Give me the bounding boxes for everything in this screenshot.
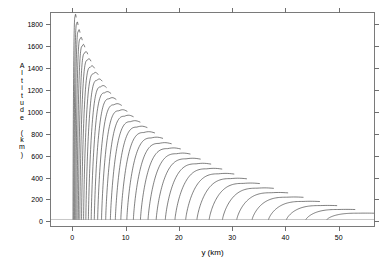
y-axis-title-char: i	[17, 84, 27, 91]
x-tick-mark	[285, 226, 286, 231]
y-tick-mark	[46, 221, 51, 222]
y-tick-mark	[46, 156, 51, 157]
x-tick-mark	[232, 226, 233, 231]
y-tick-mark-right	[374, 68, 379, 69]
y-axis-title-char: e	[17, 114, 27, 121]
trajectory-curve	[165, 163, 210, 219]
x-axis-title: y (km)	[50, 248, 375, 257]
y-tick-label: 1800	[27, 20, 43, 27]
y-tick-mark	[46, 90, 51, 91]
trajectory-curve	[127, 137, 163, 219]
x-tick-mark-top	[285, 8, 286, 13]
trajectory-curves	[51, 13, 374, 226]
x-tick-mark	[339, 226, 340, 231]
y-tick-label: 400	[31, 174, 43, 181]
trajectory-curve	[133, 143, 171, 220]
y-tick-mark-right	[374, 156, 379, 157]
trajectory-curve	[197, 178, 247, 219]
x-tick-label: 40	[282, 234, 290, 241]
y-tick-label: 1200	[27, 86, 43, 93]
y-axis-title-char: u	[17, 99, 27, 106]
y-axis-title-char: t	[17, 92, 27, 99]
y-axis-title-char: k	[17, 136, 27, 143]
y-tick-label: 1600	[27, 42, 43, 49]
y-tick-mark	[46, 112, 51, 113]
trajectory-curve	[306, 209, 355, 219]
y-tick-label: 1400	[27, 64, 43, 71]
y-tick-label: 800	[31, 130, 43, 137]
x-tick-mark-top	[339, 8, 340, 13]
y-axis-title-char: t	[17, 77, 27, 84]
y-tick-mark	[46, 199, 51, 200]
trajectory-curve	[148, 153, 190, 219]
y-axis-title-char: )	[17, 151, 27, 158]
y-axis-title-char	[17, 121, 27, 128]
chart-figure: 0200400600800100012001400160018000102030…	[0, 0, 392, 265]
x-tick-mark-top	[232, 8, 233, 13]
y-tick-label: 1000	[27, 108, 43, 115]
x-tick-mark	[126, 226, 127, 231]
x-tick-mark-top	[179, 8, 180, 13]
y-axis-title-char: m	[17, 143, 27, 150]
plot-area: 0200400600800100012001400160018000102030…	[50, 12, 375, 227]
x-tick-mark-top	[126, 8, 127, 13]
y-axis-title-char: A	[17, 62, 27, 69]
y-tick-mark	[46, 178, 51, 179]
trajectory-curve	[269, 201, 320, 219]
y-tick-mark-right	[374, 112, 379, 113]
y-tick-mark-right	[374, 90, 379, 91]
trajectory-curve	[140, 148, 180, 220]
x-tick-label: 50	[335, 234, 343, 241]
y-axis-title: Altitude (km)	[17, 62, 27, 158]
x-tick-mark	[72, 226, 73, 231]
y-tick-mark-right	[374, 134, 379, 135]
y-tick-label: 200	[31, 196, 43, 203]
x-tick-mark	[179, 226, 180, 231]
trajectory-curve	[156, 158, 200, 219]
trajectory-curve	[110, 121, 140, 220]
y-axis-title-char: (	[17, 129, 27, 136]
y-tick-mark-right	[374, 178, 379, 179]
y-tick-mark-right	[374, 24, 379, 25]
y-tick-mark-right	[374, 199, 379, 200]
trajectory-curve	[252, 197, 303, 219]
y-tick-mark	[46, 24, 51, 25]
trajectory-curve	[115, 126, 147, 219]
y-axis-title-char: l	[17, 69, 27, 76]
y-tick-mark	[46, 46, 51, 47]
x-tick-mark-top	[72, 8, 73, 13]
x-tick-label: 0	[70, 234, 74, 241]
x-tick-label: 30	[228, 234, 236, 241]
x-tick-label: 20	[175, 234, 183, 241]
y-tick-mark-right	[374, 46, 379, 47]
x-tick-label: 10	[122, 234, 130, 241]
y-tick-label: 600	[31, 152, 43, 159]
trajectory-curve	[186, 173, 234, 219]
y-tick-mark-right	[374, 221, 379, 222]
y-tick-mark	[46, 134, 51, 135]
y-tick-label: 0	[39, 218, 43, 225]
y-axis-title-char: d	[17, 106, 27, 113]
y-tick-mark	[46, 68, 51, 69]
trajectory-curve	[287, 205, 337, 219]
trajectory-curve	[327, 213, 374, 219]
